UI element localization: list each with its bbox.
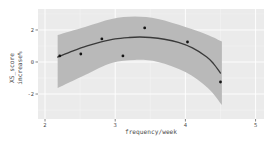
chart-svg: 2345-202 XS_score increase% frequency/we… [0,0,269,142]
data-point [100,38,103,41]
data-point [219,81,222,84]
x-axis-label: frequency/week [125,128,177,136]
y-axis-label-line2: increase% [16,51,23,85]
y-tick-label: 2 [31,27,34,33]
data-point [122,55,125,58]
x-tick-label: 3 [114,122,117,128]
data-point [79,53,82,56]
chart-layers: 2345-202 [27,9,264,128]
x-tick-label: 2 [43,122,46,128]
data-point [58,55,61,58]
y-tick-label: 0 [31,59,34,65]
x-tick-label: 4 [184,122,188,128]
data-point [143,26,146,29]
data-point [186,41,189,44]
scatter-plot-figure: 2345-202 XS_score increase% frequency/we… [0,0,269,142]
x-tick-label: 5 [254,122,257,128]
y-tick-label: -2 [27,91,34,97]
